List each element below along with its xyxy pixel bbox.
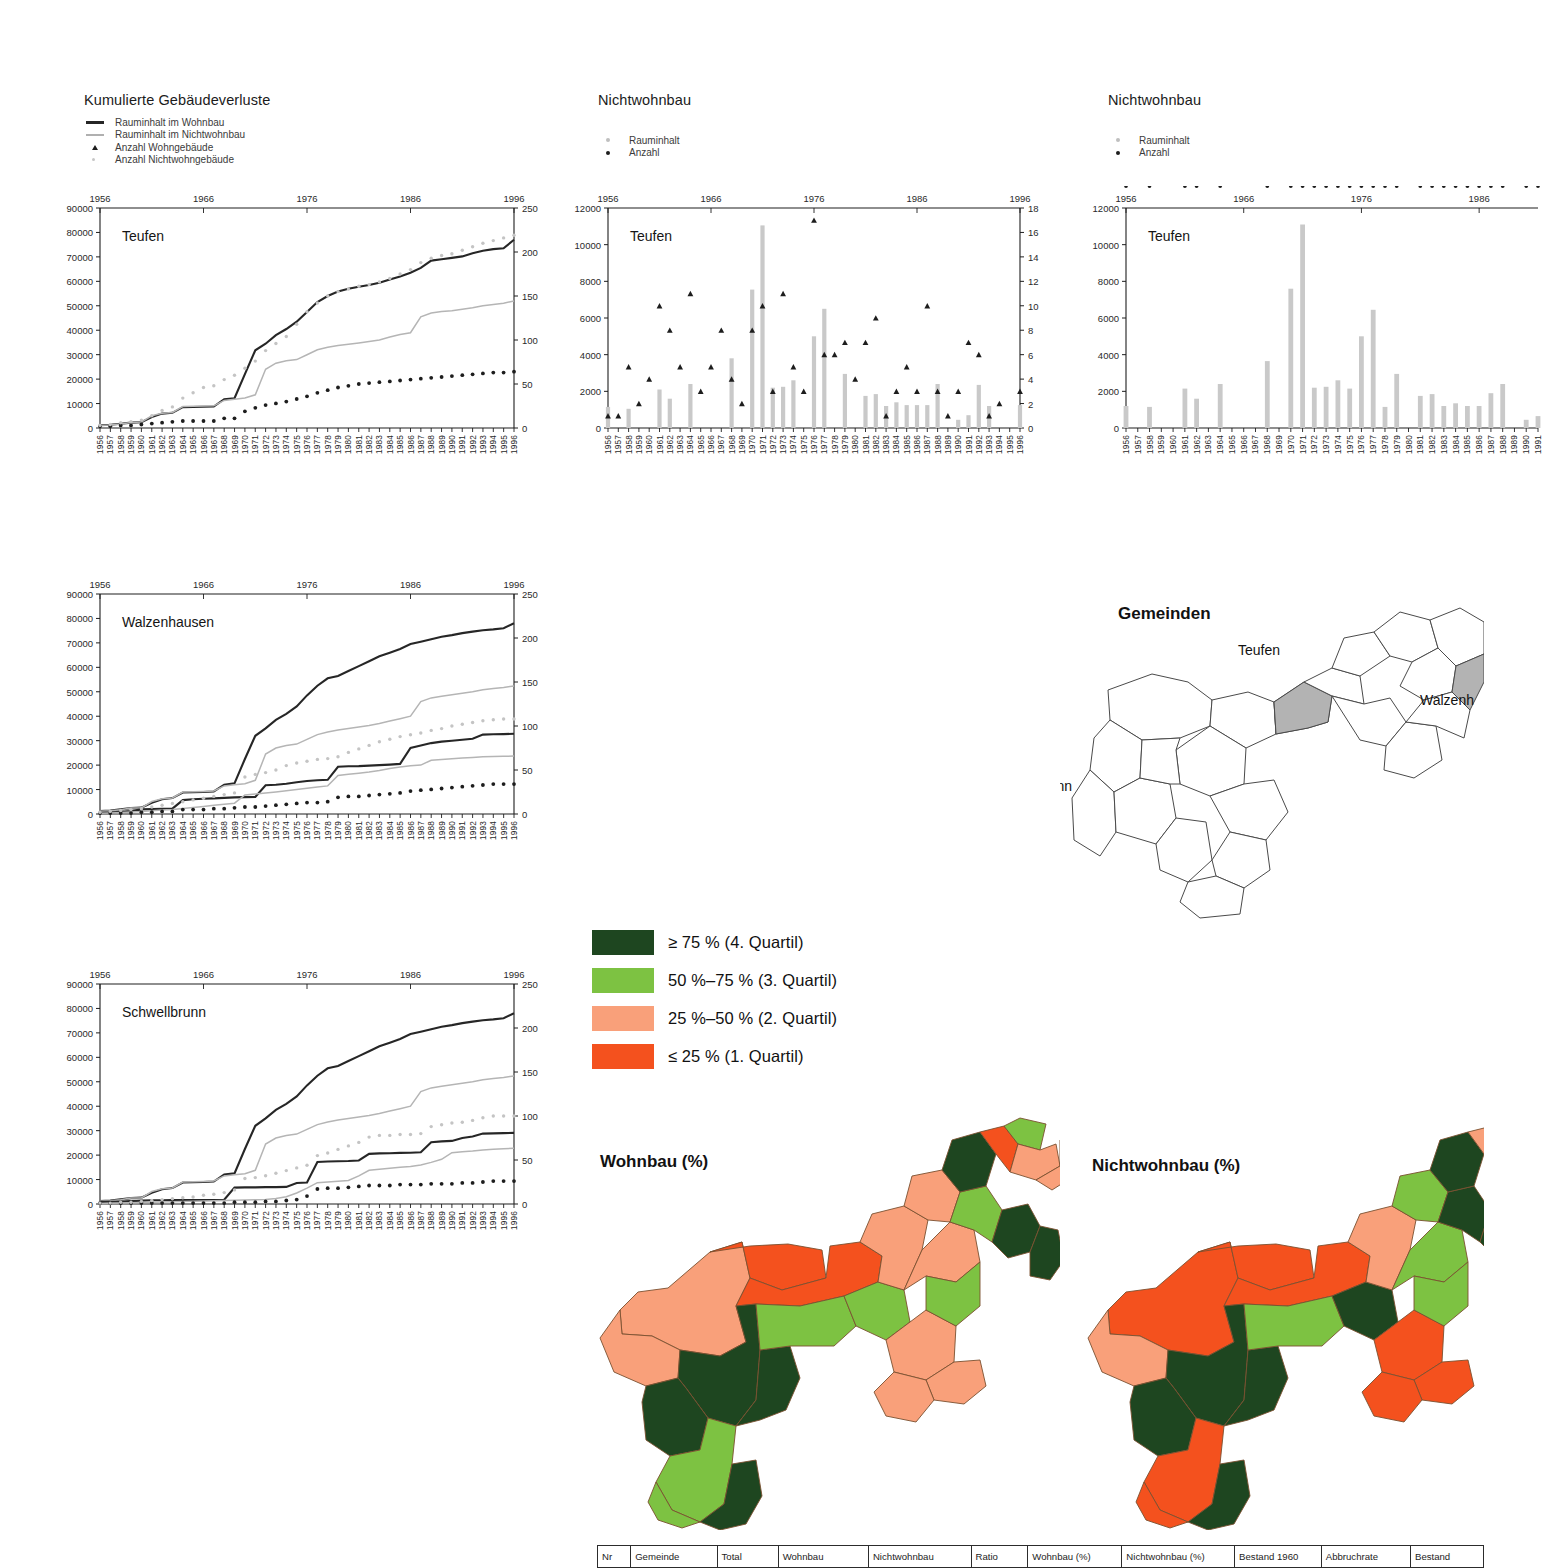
series-point — [253, 406, 257, 410]
x-axis-tick-label: 1963 — [676, 435, 685, 454]
y-axis-tick-label: 90000 — [44, 203, 93, 214]
x-axis-tick-label: 1974 — [282, 821, 291, 840]
series-point — [1395, 186, 1399, 188]
series-point — [129, 424, 133, 428]
series-point — [429, 376, 433, 380]
x-axis-major-label: 1986 — [1469, 193, 1490, 204]
series-point — [233, 374, 236, 377]
y-axis-tick-label: 30000 — [44, 1125, 93, 1136]
series-point — [502, 782, 506, 786]
x-axis-tick-label: 1957 — [1134, 435, 1143, 454]
x-axis-tick-label: 1982 — [365, 821, 374, 840]
x-axis-major-label: 1976 — [296, 969, 317, 980]
series-point — [1265, 186, 1269, 188]
y2-axis-tick-label: 16 — [1028, 227, 1039, 238]
quartile-legend-item: 25 %–50 % (2. Quartil) — [592, 1006, 837, 1031]
series-point — [233, 416, 237, 420]
series-point — [119, 1201, 122, 1204]
y-axis-tick-label: 12000 — [1078, 203, 1119, 214]
x-axis-tick-label: 1975 — [1346, 435, 1355, 454]
series-point — [367, 1135, 370, 1138]
x-axis-tick-label: 1963 — [168, 821, 177, 840]
x-axis-tick-label: 1973 — [272, 821, 281, 840]
series-point — [212, 807, 216, 811]
series-line — [100, 1013, 514, 1201]
x-axis-tick-label: 1994 — [489, 435, 498, 454]
series-point — [512, 234, 515, 237]
series-point — [502, 717, 505, 720]
series-point — [264, 1174, 267, 1177]
x-axis-tick-label: 1971 — [251, 821, 260, 840]
series-point — [243, 775, 246, 778]
x-axis-tick-label: 1969 — [231, 1211, 240, 1230]
series-point — [171, 1197, 174, 1200]
y2-axis-tick-label: 150 — [522, 1067, 538, 1078]
x-axis-tick-label: 1980 — [344, 821, 353, 840]
x-axis-tick-label: 1957 — [106, 821, 115, 840]
legend-label: Anzahl — [1139, 147, 1170, 158]
x-axis-tick-label: 1993 — [985, 435, 994, 454]
series-point — [98, 424, 101, 427]
series-marker — [997, 401, 1003, 406]
series-point — [264, 771, 267, 774]
chart-series-title: Teufen — [630, 228, 672, 244]
x-axis-tick-label: 1970 — [241, 1211, 250, 1230]
x-axis-tick-label: 1966 — [200, 1211, 209, 1230]
series-point — [512, 1179, 516, 1183]
legend-label: Rauminhalt — [1139, 135, 1190, 146]
series-point — [295, 1166, 298, 1169]
bar — [688, 384, 692, 428]
series-point — [326, 800, 330, 804]
y2-axis-tick-label: 100 — [522, 335, 538, 346]
x-axis-tick-label: 1971 — [251, 1211, 260, 1230]
map-label-teufen: Teufen — [1238, 642, 1280, 658]
y-axis-tick-label: 8000 — [1078, 276, 1119, 287]
series-point — [347, 384, 351, 388]
x-axis-tick-label: 1976 — [303, 435, 312, 454]
y-axis-tick-label: 4000 — [1078, 349, 1119, 360]
x-axis-tick-label: 1983 — [882, 435, 891, 454]
y-axis-tick-label: 0 — [44, 423, 93, 434]
series-point — [160, 409, 163, 412]
bottom-table: Nr Gemeinde Total Wohnbau Nichtwohnbau R… — [597, 1545, 1484, 1568]
y-axis-tick-label: 10000 — [1078, 239, 1119, 250]
series-point — [160, 1198, 163, 1201]
series-point — [150, 805, 153, 808]
bar — [1465, 406, 1470, 428]
series-point — [109, 423, 112, 426]
legend-label: Rauminhalt im Wohnbau — [115, 117, 224, 128]
series-point — [491, 782, 495, 786]
series-point — [316, 1187, 320, 1191]
x-axis-tick-label: 1982 — [365, 1211, 374, 1230]
x-axis-tick-label: 1972 — [769, 435, 778, 454]
x-axis-tick-label: 1980 — [1405, 435, 1414, 454]
x-axis-tick-label: 1978 — [324, 1211, 333, 1230]
series-point — [253, 1200, 257, 1204]
x-axis-tick-label: 1956 — [1122, 435, 1131, 454]
series-point — [305, 394, 309, 398]
series-point — [460, 373, 464, 377]
y2-axis-tick-label: 0 — [1028, 423, 1033, 434]
series-point — [440, 254, 443, 257]
y-axis-tick-label: 40000 — [44, 325, 93, 336]
series-point — [212, 1193, 215, 1196]
series-marker — [811, 217, 817, 222]
x-axis-tick-label: 1994 — [995, 435, 1004, 454]
series-marker — [976, 352, 982, 357]
gemeinden-map-title: Gemeinden — [1118, 604, 1211, 624]
x-axis-tick-label: 1977 — [820, 435, 829, 454]
series-point — [202, 1201, 206, 1205]
series-point — [150, 422, 154, 426]
y2-axis-tick-label: 0 — [522, 1199, 527, 1210]
x-axis-major-label: 1996 — [503, 969, 524, 980]
x-axis-tick-label: 1987 — [417, 821, 426, 840]
y2-axis-tick-label: 200 — [522, 1023, 538, 1034]
chart-series-title: Teufen — [122, 228, 164, 244]
x-axis-tick-label: 1975 — [293, 821, 302, 840]
x-axis-tick-label: 1966 — [1240, 435, 1249, 454]
x-axis-tick-label: 1993 — [479, 821, 488, 840]
bar — [668, 399, 672, 428]
series-point — [367, 1184, 371, 1188]
series-point — [233, 1188, 236, 1191]
x-axis-tick-label: 1995 — [500, 1211, 509, 1230]
